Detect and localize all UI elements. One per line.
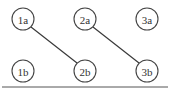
- node-1a-label: 1a: [18, 14, 29, 26]
- node-3b[interactable]: 3b: [136, 60, 158, 82]
- edge-1a-to-2b: [31, 27, 77, 63]
- node-3a-label: 3a: [142, 14, 153, 26]
- node-3b-label: 3b: [142, 66, 154, 78]
- node-1b-label: 1b: [18, 66, 30, 78]
- node-1a[interactable]: 1a: [12, 8, 34, 30]
- node-2b-label: 2b: [80, 66, 92, 78]
- node-1b[interactable]: 1b: [12, 60, 34, 82]
- node-2a[interactable]: 2a: [74, 8, 96, 30]
- edge-2a-to-3b: [93, 27, 139, 63]
- node-3a[interactable]: 3a: [136, 8, 158, 30]
- edge-layer: [31, 27, 139, 63]
- node-link-graph: 1a 2a 3a 1b 2b 3b: [0, 0, 170, 91]
- node-layer: 1a 2a 3a 1b 2b 3b: [12, 8, 158, 82]
- node-2a-label: 2a: [80, 14, 91, 26]
- node-2b[interactable]: 2b: [74, 60, 96, 82]
- diagram-canvas: 1a 2a 3a 1b 2b 3b: [0, 0, 170, 91]
